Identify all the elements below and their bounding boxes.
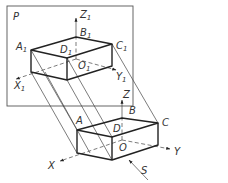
label-c: C (162, 117, 169, 128)
label-y: Y (174, 146, 181, 157)
label-x: X (47, 160, 56, 171)
label-z: Z (122, 89, 131, 100)
label-c1: C1 (116, 40, 127, 53)
label-a1: A1 (15, 41, 27, 54)
label-d: D (113, 123, 121, 134)
projection-rays (31, 44, 158, 160)
original-box-labels: Z B A D C O X Y S (47, 89, 181, 176)
diagram-canvas: P Z1 B1 A1 D1 C1 O1 X1 Y1 Z B A D C O X … (0, 0, 228, 183)
plane-label: P (13, 11, 20, 22)
label-y1: Y1 (116, 71, 127, 84)
label-d1: D1 (60, 44, 72, 57)
label-x1: X1 (13, 80, 25, 93)
label-o: O (119, 142, 127, 153)
label-a: A (75, 115, 83, 126)
label-s: S (141, 165, 148, 176)
projected-box-labels: Z1 B1 A1 D1 C1 O1 X1 Y1 (13, 9, 127, 93)
label-b: B (129, 105, 136, 116)
label-z1: Z1 (79, 9, 91, 22)
label-o1: O1 (78, 60, 90, 73)
oblique-projection-diagram: P Z1 B1 A1 D1 C1 O1 X1 Y1 Z B A D C O X … (0, 0, 228, 183)
